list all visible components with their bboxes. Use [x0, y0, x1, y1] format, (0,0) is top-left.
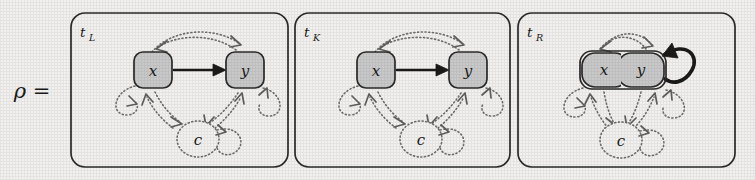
panel-tR[interactable]: t R — [518, 13, 735, 167]
node-tR-x-label: x — [600, 61, 609, 79]
edge-tL-x-to-y-solid — [174, 64, 226, 76]
node-tL-c-label: c — [194, 131, 203, 149]
panel-tL-label: t — [80, 24, 86, 40]
edge-tK-y-self-loop — [482, 88, 503, 116]
node-tL-y-label: y — [240, 62, 250, 80]
edge-tL-x-self-loop — [116, 86, 137, 115]
rule-diagram: ρ = t L — [0, 0, 755, 180]
edge-tL-c-to-y — [215, 93, 244, 128]
node-tK-y[interactable]: y — [449, 52, 487, 88]
edge-tR-merged-self-loop-left — [564, 88, 585, 117]
panel-tR-title: t R — [527, 24, 543, 43]
figure-root: ρ = t L — [0, 0, 755, 180]
edge-tL-y-self-loop — [259, 88, 280, 116]
panel-tL-title: t L — [80, 24, 95, 43]
rho-equals-label: ρ = — [13, 79, 51, 103]
node-tL-x[interactable]: x — [134, 52, 172, 88]
node-tR-y-label: y — [636, 61, 646, 79]
edge-tR-merged-self-loop-right — [663, 90, 684, 118]
edge-tK-x-self-loop — [339, 86, 360, 115]
node-tL-y[interactable]: y — [226, 52, 264, 88]
panel-tK-title: t K — [304, 24, 321, 43]
panel-tR-label: t — [527, 24, 533, 40]
node-tK-x-label: x — [372, 62, 381, 80]
edge-tR-c-to-xy-right — [634, 93, 657, 128]
node-tK-x[interactable]: x — [357, 52, 395, 88]
node-tL-c[interactable]: c — [177, 121, 219, 157]
panel-tK[interactable]: t K x y — [295, 13, 510, 167]
edge-tK-x-to-y-solid — [397, 64, 449, 76]
panel-tL-subscript: L — [88, 32, 95, 43]
edge-tR-c-to-xy-left — [585, 94, 608, 128]
edge-tR-xy-to-c-right — [625, 92, 641, 127]
panel-tK-subscript: K — [312, 32, 321, 43]
panel-tR-subscript: R — [535, 32, 543, 43]
edge-tL-y-to-x-arc — [156, 37, 236, 52]
node-tK-c-label: c — [417, 131, 426, 149]
node-tR-xy-merged[interactable]: x y — [580, 51, 666, 89]
node-tR-c-label: c — [617, 132, 626, 150]
edge-tK-x-to-c — [378, 92, 405, 127]
node-tL-x-label: x — [149, 62, 158, 80]
rho-equals-text: ρ = — [13, 79, 51, 103]
panel-tK-label: t — [304, 24, 310, 40]
edge-tL-x-to-c — [155, 92, 182, 127]
edge-tK-y-to-x-arc — [379, 37, 459, 52]
node-tR-c[interactable]: c — [600, 122, 642, 158]
panel-tL[interactable]: t L x — [71, 13, 288, 167]
node-tK-c[interactable]: c — [400, 121, 442, 157]
edge-tK-c-to-y — [438, 93, 467, 128]
edge-tR-merged-arc-left — [600, 37, 646, 52]
node-tK-y-label: y — [463, 62, 473, 80]
